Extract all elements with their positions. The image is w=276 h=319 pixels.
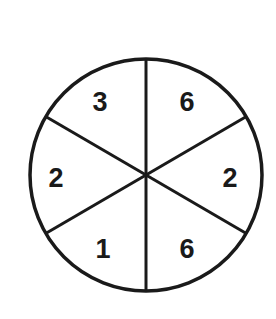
section-label-top-right: 6: [179, 87, 194, 117]
section-label-top-left: 3: [92, 87, 107, 117]
section-label-bottom-right: 6: [179, 234, 194, 264]
section-label-left: 2: [48, 163, 63, 193]
section-label-bottom-left: 1: [95, 234, 110, 264]
section-label-right: 2: [222, 163, 237, 193]
spinner-diagram: 3 6 2 6 1 2: [0, 0, 276, 319]
